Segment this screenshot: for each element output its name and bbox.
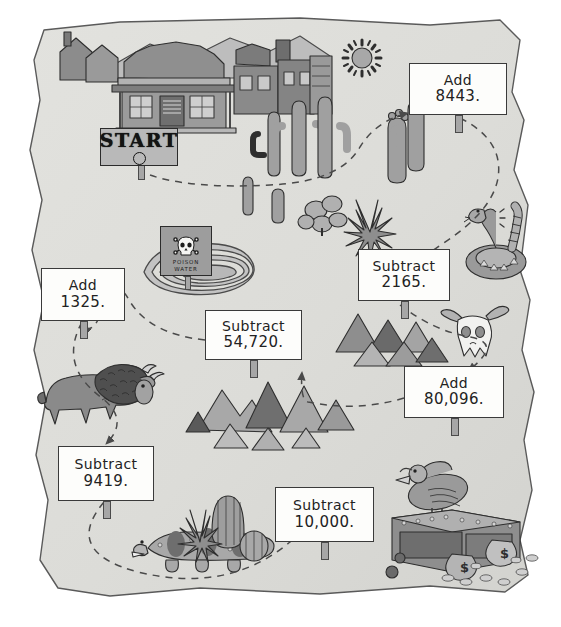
start-sign[interactable]: START xyxy=(100,128,178,166)
operation-sign[interactable]: Subtract 10,000. xyxy=(275,487,374,542)
operation-label: Subtract xyxy=(75,457,138,473)
operation-sign[interactable]: Subtract 54,720. xyxy=(205,310,302,360)
operation-value: 1325. xyxy=(61,294,106,311)
poison-sign-post xyxy=(185,276,191,290)
operation-sign[interactable]: Add 80,096. xyxy=(404,366,504,418)
skull-and-crossbones-icon xyxy=(171,236,201,258)
sign-hole xyxy=(133,152,146,165)
start-sign-post xyxy=(138,164,145,180)
sign-post xyxy=(321,542,329,560)
poison-water-sign[interactable]: POISON WATER xyxy=(160,226,212,276)
operation-sign[interactable]: Subtract 9419. xyxy=(58,446,154,501)
operation-label: Add xyxy=(444,73,472,89)
operation-sign[interactable]: Subtract 2165. xyxy=(358,249,450,301)
sign-post xyxy=(250,360,258,378)
worksheet-canvas: $ $ xyxy=(0,0,561,627)
operation-value: 9419. xyxy=(84,473,129,490)
start-sign-label: START xyxy=(100,129,179,151)
operation-label: Add xyxy=(440,376,468,392)
operation-label: Subtract xyxy=(293,498,356,514)
sign-post xyxy=(80,321,88,339)
sign-post xyxy=(455,115,463,133)
operation-value: 10,000. xyxy=(294,514,354,531)
operation-value: 80,096. xyxy=(424,391,484,408)
poison-sign-line1: POISON xyxy=(173,259,200,266)
operation-label: Subtract xyxy=(373,259,436,275)
operation-sign[interactable]: Add 1325. xyxy=(41,268,125,321)
operation-sign[interactable]: Add 8443. xyxy=(409,63,507,115)
sign-post xyxy=(451,418,459,436)
poison-sign-line2: WATER xyxy=(174,266,198,273)
operation-value: 54,720. xyxy=(223,334,283,351)
operation-label: Add xyxy=(69,278,97,294)
operation-value: 8443. xyxy=(436,88,481,105)
sign-post xyxy=(401,301,409,319)
sign-post xyxy=(103,501,111,519)
operation-label: Subtract xyxy=(222,319,285,335)
operation-value: 2165. xyxy=(382,274,427,291)
